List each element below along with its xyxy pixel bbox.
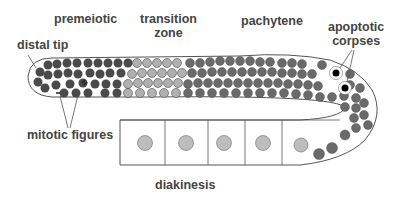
label-distal-tip: distal tip — [17, 38, 68, 52]
transition-zone-nuclei — [124, 59, 187, 98]
label-pachytene: pachytene — [241, 14, 303, 28]
label-diakinesis: diakinesis — [155, 178, 215, 192]
oocyte-nuclei — [138, 136, 309, 153]
label-zone: zone — [140, 26, 197, 40]
label-apoptotic: apoptotic — [328, 20, 384, 34]
label-transition: transition — [140, 12, 197, 26]
label-mitotic-figures: mitotic figures — [27, 128, 113, 142]
label-premeiotic: premeiotic — [54, 12, 117, 26]
label-transition-zone: transition zone — [140, 12, 197, 40]
pachytene-nuclei — [184, 57, 373, 160]
label-apoptotic-corpses: apoptotic corpses — [328, 20, 384, 48]
premeiotic-nuclei — [34, 59, 133, 98]
label-corpses: corpses — [328, 34, 384, 48]
